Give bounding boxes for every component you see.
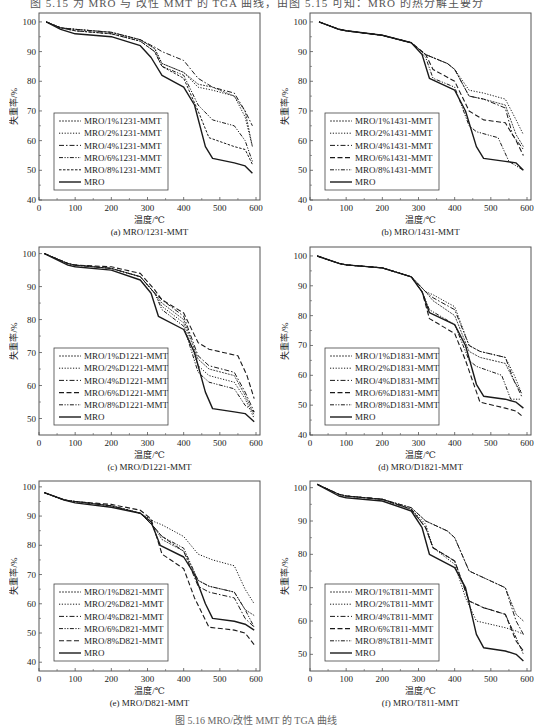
x-tick-label: 300 [141,438,155,448]
legend-label: MRO/6%D821-MMT [84,624,164,634]
legend-label: MRO/8%T811-MMT [355,636,434,646]
chart-caption: (b) MRO/1431-MMT [381,227,460,237]
x-tick-label: 400 [177,674,191,684]
y-axis-label: 失重率/% [280,557,290,595]
x-tick-label: 500 [484,438,498,448]
y-tick-label: 50 [298,649,308,659]
y-tick-label: 90 [27,282,37,292]
y-tick-label: 90 [298,281,308,291]
legend: MRO/1%1431-MMTMRO/2%1431-MMTMRO/4%1431-M… [325,113,439,190]
y-axis-label: 失重率/% [9,87,19,125]
y-tick-label: 60 [27,599,37,609]
y-tick-label: 50 [27,414,37,424]
x-tick-label: 200 [105,674,119,684]
x-tick-label: 400 [448,438,462,448]
x-tick-label: 400 [177,438,191,448]
x-tick-label: 0 [37,674,42,684]
legend-label: MRO/8%D1221-MMT [84,400,169,410]
y-tick-label: 60 [298,616,308,626]
y-tick-label: 100 [294,251,308,261]
legend-label: MRO/1%D1221-MMT [84,351,169,361]
chart-panel-e: 0100200300400500600405060708090100失重率/%温… [9,475,280,717]
x-tick-label: 400 [177,203,191,213]
x-tick-label: 600 [520,674,534,684]
legend-label: MRO [355,177,376,187]
legend-label: MRO/6%1231-MMT [84,153,162,163]
y-axis-label: 失重率/% [9,557,19,595]
legend-label: MRO/2%D1221-MMT [84,363,169,373]
y-tick-label: 70 [298,340,308,350]
legend: MRO/1%1231-MMTMRO/2%1231-MMTMRO/4%1231-M… [54,113,168,190]
chart-caption: (d) MRO/D1821-MMT [378,462,463,472]
x-tick-label: 100 [339,438,353,448]
x-tick-label: 600 [249,203,263,213]
x-tick-label: 0 [308,203,313,213]
legend-label: MRO [355,412,376,422]
legend-label: MRO/4%1431-MMT [355,141,433,151]
x-axis-label: 温度/℃ [405,214,436,225]
legend-label: MRO/4%D821-MMT [84,612,164,622]
y-tick-label: 70 [27,570,37,580]
legend-label: MRO/2%1431-MMT [355,128,433,138]
y-tick-label: 100 [23,482,37,492]
legend-label: MRO/1%D821-MMT [84,587,164,597]
x-tick-label: 100 [339,203,353,213]
legend-label: MRO/2%T811-MMT [355,599,434,609]
figure-caption: 图 5.16 MRO/改性 MMT 的 TGA 曲线 [175,712,337,727]
y-tick-label: 60 [298,370,308,380]
legend-label: MRO/8%D1831-MMT [355,400,440,410]
legend-label: MRO/4%T811-MMT [355,612,434,622]
x-axis-label: 温度/℃ [134,685,165,696]
y-tick-label: 50 [298,165,308,175]
y-tick-label: 40 [27,657,37,667]
legend-label: MRO/4%D1831-MMT [355,376,440,386]
chart-panel-f: 01002003004005006005060708090100失重率/%温度/… [280,475,549,717]
y-tick-label: 50 [27,628,37,638]
legend-label: MRO/1%D1831-MMT [355,351,440,361]
legend-label: MRO/2%1231-MMT [84,128,162,138]
chart-panel-b: 0100200300400500600405060708090100失重率/%温… [280,7,549,246]
series-line [46,22,252,126]
legend-label: MRO [84,177,105,187]
y-tick-label: 70 [298,106,308,116]
x-tick-label: 500 [484,203,498,213]
y-tick-label: 90 [27,511,37,521]
legend-label: MRO [84,648,105,658]
x-tick-label: 300 [141,674,155,684]
legend: MRO/1%D821-MMTMRO/2%D821-MMTMRO/4%D821-M… [54,584,168,661]
x-tick-label: 200 [376,203,390,213]
legend-label: MRO [84,412,105,422]
x-tick-label: 300 [412,203,426,213]
x-tick-label: 400 [448,203,462,213]
legend-label: MRO [355,648,376,658]
y-tick-label: 80 [27,540,37,550]
x-tick-label: 0 [37,203,42,213]
x-tick-label: 500 [213,674,227,684]
legend-label: MRO/6%D1221-MMT [84,388,169,398]
legend-label: MRO/6%T811-MMT [355,624,434,634]
y-tick-label: 50 [298,400,308,410]
x-tick-label: 600 [249,674,263,684]
y-tick-label: 100 [23,17,37,27]
x-axis-label: 温度/℃ [405,685,436,696]
y-axis-label: 失重率/% [280,87,290,125]
x-tick-label: 0 [308,438,313,448]
x-tick-label: 300 [412,438,426,448]
x-tick-label: 600 [249,438,263,448]
legend-label: MRO/6%D1831-MMT [355,388,440,398]
x-tick-label: 100 [68,203,82,213]
x-tick-label: 300 [141,203,155,213]
x-tick-label: 500 [213,438,227,448]
chart-caption: (a) MRO/1231-MMT [111,227,189,237]
x-tick-label: 200 [376,438,390,448]
chart-caption: (f) MRO/T811-MMT [382,698,460,708]
y-tick-label: 80 [298,549,308,559]
y-tick-label: 70 [298,583,308,593]
legend-label: MRO/1%T811-MMT [355,587,434,597]
y-tick-label: 90 [298,516,308,526]
legend: MRO/1%T811-MMTMRO/2%T811-MMTMRO/4%T811-M… [325,584,439,661]
x-tick-label: 600 [520,438,534,448]
x-tick-label: 100 [68,438,82,448]
x-tick-label: 600 [520,203,534,213]
y-tick-label: 80 [27,76,37,86]
